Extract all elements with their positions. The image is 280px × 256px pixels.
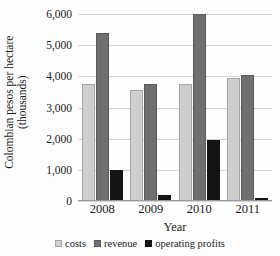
plot-area [78,14,272,201]
bar-group [78,14,127,201]
y-axis-title-line1: Colombian pesos per hectare [4,36,17,169]
y-axis-tick-labels: 01,0002,0003,0004,0005,0006,000 [34,8,76,208]
legend-swatch-icon [94,240,101,247]
bar-revenue-2008 [96,33,109,201]
legend-swatch-icon [145,240,152,247]
bars-layer [78,14,272,201]
legend-label: costs [65,238,86,249]
y-axis-title: Colombian pesos per hectare (thousands) [0,0,34,205]
y-axis-tick-label: 2,000 [46,133,72,145]
legend-swatch-icon [55,240,62,247]
y-axis-tick-label: 1,000 [46,164,72,176]
bar-operating-profits-2010 [207,140,220,201]
bar-revenue-2009 [144,84,157,201]
x-axis-tick-label: 2008 [90,202,115,217]
legend-label: revenue [104,238,137,249]
legend-label: operating profits [155,238,225,249]
y-axis-tick-label: 0 [66,195,72,207]
y-axis-tick-label: 3,000 [46,102,72,114]
bar-costs-2008 [82,84,95,201]
x-axis-tick-label: 2009 [138,202,163,217]
y-axis-title-line2: (thousands) [17,36,30,169]
x-axis-title: Year [78,220,272,235]
x-axis-line [78,200,272,201]
x-axis-tick-label: 2011 [235,202,260,217]
y-axis-tick-label: 4,000 [46,70,72,82]
chart-legend: costsrevenueoperating profits [0,238,280,249]
bar-group [127,14,176,201]
bar-group [175,14,224,201]
bar-operating-profits-2008 [110,170,123,201]
x-axis-tick-label: 2010 [187,202,212,217]
bar-group [224,14,273,201]
bar-costs-2009 [130,90,143,201]
bar-chart: Colombian pesos per hectare (thousands) … [0,0,280,256]
legend-item-costs[interactable]: costs [55,238,86,249]
bar-revenue-2010 [193,14,206,201]
legend-item-operating-profits[interactable]: operating profits [145,238,225,249]
bar-costs-2011 [227,78,240,201]
bar-revenue-2011 [241,75,254,201]
y-axis-tick-label: 6,000 [46,8,72,20]
y-axis-tick-label: 5,000 [46,39,72,51]
bar-costs-2010 [179,84,192,201]
legend-item-revenue[interactable]: revenue [94,238,137,249]
x-axis-tick-labels: 2008200920102011 [78,202,272,222]
